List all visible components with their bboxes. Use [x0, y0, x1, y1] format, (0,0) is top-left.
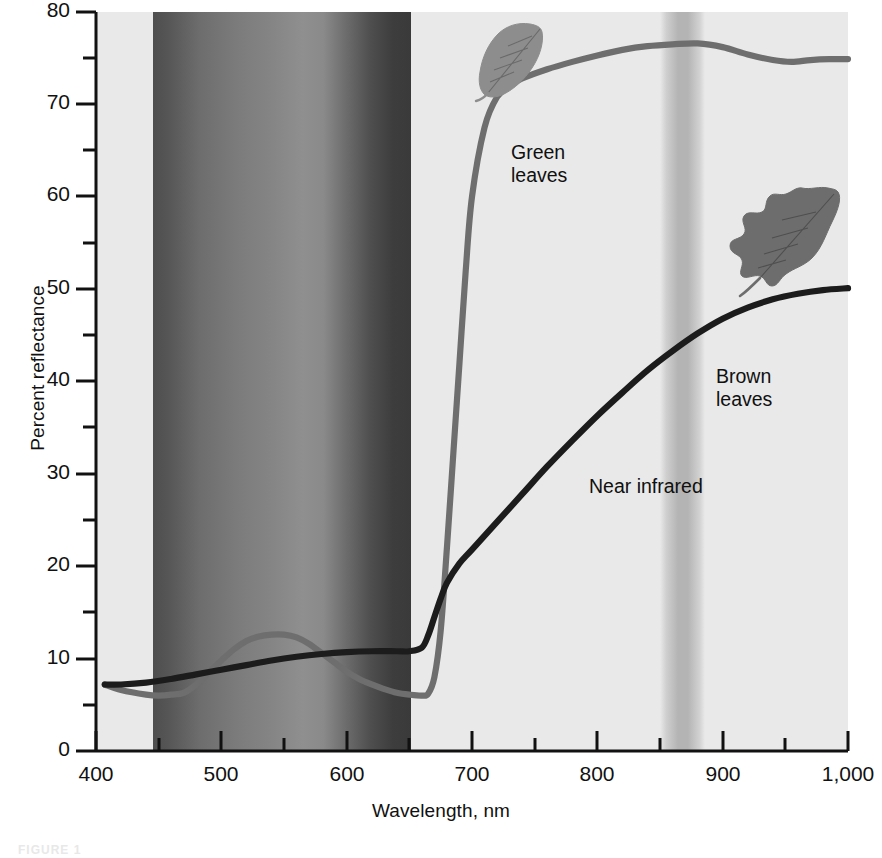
- y-tick-label-20: 20: [20, 552, 70, 576]
- y-axis-major-ticks: [76, 12, 96, 751]
- green-leaves-label: Green leaves: [511, 141, 567, 187]
- x-tick-label-900: 900: [673, 762, 773, 786]
- y-tick-label-0: 0: [20, 737, 70, 761]
- x-tick-label-400: 400: [46, 762, 146, 786]
- y-tick-label-60: 60: [20, 182, 70, 206]
- near-infrared-label: Near infrared: [589, 475, 703, 498]
- x-tick-label-800: 800: [547, 762, 647, 786]
- x-tick-label-500: 500: [171, 762, 271, 786]
- figure-caption: FIGURE 1: [18, 843, 81, 857]
- visible-spectrum-band: [153, 12, 411, 751]
- x-tick-label-600: 600: [297, 762, 397, 786]
- x-axis-title: Wavelength, nm: [0, 800, 882, 822]
- reflectance-chart: [0, 0, 882, 858]
- x-tick-label-700: 700: [422, 762, 522, 786]
- x-tick-label-1000: 1,000: [793, 762, 882, 786]
- y-tick-label-10: 10: [20, 645, 70, 669]
- y-tick-label-70: 70: [20, 90, 70, 114]
- figure-root: 80 70 60 50 40 30 20 10 0 400 500 600 70…: [0, 0, 882, 858]
- y-tick-label-80: 80: [20, 0, 70, 22]
- near-infrared-band: [660, 12, 705, 751]
- brown-leaves-label: Brown leaves: [716, 365, 772, 411]
- y-axis-title: Percent reflectance: [27, 268, 49, 468]
